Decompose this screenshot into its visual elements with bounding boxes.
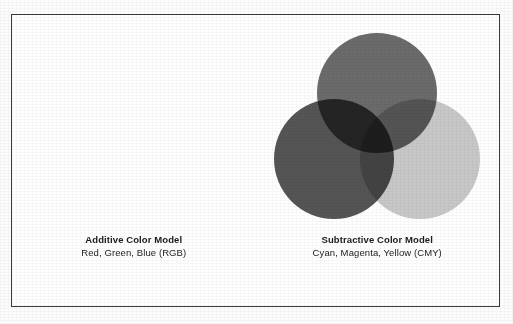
subtractive-caption: Subtractive Color Model Cyan, Magenta, Y… [256, 233, 500, 259]
color-model-figure: Additive Color Model Red, Green, Blue (R… [0, 0, 513, 324]
additive-venn-wrap [25, 25, 243, 230]
additive-caption-title: Additive Color Model [12, 233, 256, 246]
panel-subtractive: Subtractive Color Model Cyan, Magenta, Y… [256, 15, 500, 306]
additive-caption-subtitle: Red, Green, Blue (RGB) [12, 246, 256, 259]
figure-frame: Additive Color Model Red, Green, Blue (R… [11, 14, 500, 307]
subtractive-venn [268, 25, 486, 230]
additive-caption: Additive Color Model Red, Green, Blue (R… [12, 233, 256, 259]
additive-venn [25, 25, 243, 230]
subtractive-caption-title: Subtractive Color Model [256, 233, 500, 246]
panel-container: Additive Color Model Red, Green, Blue (R… [12, 15, 499, 306]
yellow-circle [360, 99, 480, 219]
subtractive-caption-subtitle: Cyan, Magenta, Yellow (CMY) [256, 246, 500, 259]
blue-circle [117, 99, 237, 219]
panel-additive: Additive Color Model Red, Green, Blue (R… [12, 15, 256, 306]
subtractive-venn-wrap [268, 25, 486, 230]
